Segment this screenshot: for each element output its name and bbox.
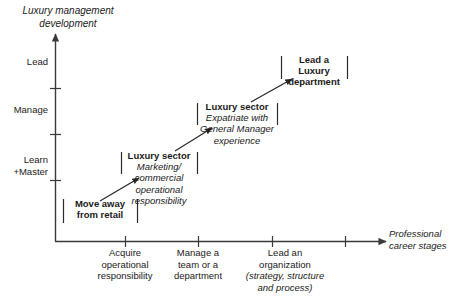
- milestone-title: Luxury sector: [200, 101, 274, 112]
- milestone-luxury-sector-marketing: Luxury sector Marketing/ commercial oper…: [124, 150, 194, 206]
- milestone-title: Luxury sector: [124, 150, 194, 161]
- x-tick-label-lead-an-organization-sub: (strategy, structure and process): [222, 270, 348, 293]
- x-axis-title: Professional career stages: [389, 228, 455, 251]
- y-tick-label-manage: Manage: [2, 104, 48, 116]
- x-tick-label-lead-an-organization-main: Lead an organization: [259, 247, 311, 270]
- x-tick-label-lead-an-organization: Lead an organization(strategy, structure…: [222, 247, 348, 293]
- career-progression-diagram: Luxury management development Profession…: [0, 0, 455, 300]
- y-axis-title: Luxury management development: [8, 4, 128, 30]
- milestone-detail: Marketing/ commercial operational respon…: [124, 161, 194, 206]
- y-tick-label-learn-master: Learn +Master: [2, 154, 48, 177]
- y-tick-label-lead: Lead: [2, 56, 48, 68]
- milestone-detail: Expatriate with General Manager experien…: [200, 112, 274, 146]
- x-axis: [55, 236, 386, 247]
- milestone-luxury-sector-expatriate: Luxury sector Expatriate with General Ma…: [200, 101, 274, 146]
- milestone-lead-a-luxury-department: Lead a Luxury department: [283, 54, 345, 88]
- milestone-title: Lead a Luxury department: [283, 54, 345, 88]
- y-axis: [50, 34, 61, 242]
